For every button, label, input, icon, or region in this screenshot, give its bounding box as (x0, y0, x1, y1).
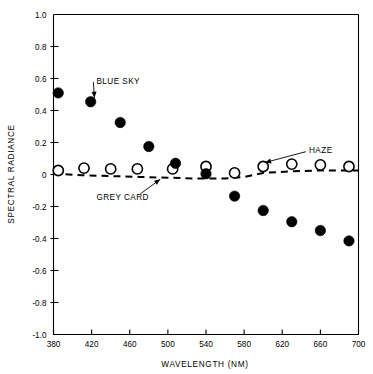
y-tick-label: 0 (42, 171, 47, 180)
haze-data-point (315, 160, 325, 170)
y-axis-title: SPECTRAL RADIANCE (7, 124, 16, 223)
blue-sky-data-point (53, 88, 63, 98)
haze-data-point (258, 161, 268, 171)
x-tick-label: 420 (85, 340, 99, 349)
x-tick-label: 620 (275, 340, 289, 349)
x-tick-label: 700 (352, 340, 366, 349)
blue-sky-data-point (85, 97, 95, 107)
blue-sky-data-point (287, 217, 297, 227)
blue-sky-data-point (229, 191, 239, 201)
haze-data-point (79, 163, 89, 173)
y-tick-label: -0.6 (32, 267, 47, 276)
y-tick-label: -0.2 (32, 203, 47, 212)
haze-data-point (344, 161, 354, 171)
x-tick-label: 380 (47, 340, 61, 349)
chart-canvas: 380420460500540580620660700 1.00.80.60.4… (0, 0, 373, 374)
spectral-radiance-chart: 380420460500540580620660700 1.00.80.60.4… (0, 0, 373, 374)
blue-sky-data-point (258, 205, 268, 215)
x-axis-tick-labels: 380420460500540580620660700 (47, 340, 366, 349)
x-tick-label: 500 (161, 340, 175, 349)
y-tick-label: -1.0 (32, 331, 47, 340)
haze-data-point (287, 159, 297, 169)
x-tick-label: 460 (123, 340, 137, 349)
y-tick-label: 0.6 (35, 75, 47, 84)
y-tick-label: -0.8 (32, 299, 47, 308)
x-tick-label: 580 (237, 340, 251, 349)
blue-sky-data-point (115, 117, 125, 127)
blue-sky-data-point (144, 141, 154, 151)
haze-data-point (132, 164, 142, 174)
y-tick-label: 0.8 (35, 43, 47, 52)
haze-data-point (53, 165, 63, 175)
y-tick-label: 1.0 (35, 11, 47, 20)
x-tick-label: 660 (314, 340, 328, 349)
y-tick-label: 0.4 (35, 107, 47, 116)
blue-sky-data-point (344, 236, 354, 246)
x-axis-title: WAVELENGTH (NM) (161, 360, 248, 369)
annotation-label-grey-card: GREY CARD (96, 193, 149, 202)
chart-background (0, 0, 373, 374)
y-tick-label: 0.2 (35, 139, 47, 148)
annotation-label-haze: HAZE (309, 146, 333, 155)
haze-data-point (106, 164, 116, 174)
haze-data-point (229, 168, 239, 178)
blue-sky-data-point (170, 158, 180, 168)
y-tick-label: -0.4 (32, 235, 47, 244)
blue-sky-data-point (201, 169, 211, 179)
annotation-label-blue-sky: BLUE SKY (96, 77, 140, 86)
x-tick-label: 540 (199, 340, 213, 349)
blue-sky-data-point (315, 225, 325, 235)
